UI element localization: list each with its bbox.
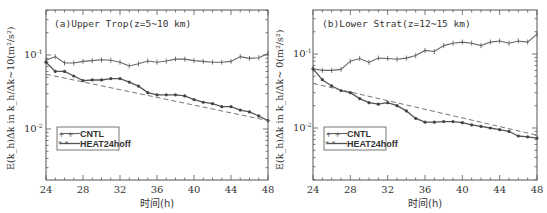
panel-title: (a)Upper Trop(z=5~10 km) xyxy=(54,18,191,29)
ytick-label-1e-1: 10-1 xyxy=(24,48,43,60)
xtick-label: 36 xyxy=(151,184,164,195)
plot-frame xyxy=(313,10,537,180)
xtick-label: 48 xyxy=(262,184,275,195)
xtick-label: 36 xyxy=(419,184,432,195)
legend: + + CNTL * * HEAT24hoff xyxy=(324,127,399,150)
legend-label-cntl: CNTL xyxy=(80,129,104,139)
y-axis-label: E(k_h)Δk in k_h/Δk~10(m²/s²) xyxy=(5,27,17,170)
xtick-label: 32 xyxy=(114,184,127,195)
ytick-label-1e-1: 10-1 xyxy=(293,47,312,59)
series-line-heat24hoff xyxy=(46,62,268,120)
xtick-label: 28 xyxy=(77,184,90,195)
legend-marker-cntl: + + xyxy=(58,130,74,139)
legend-label-heat: HEAT24hoff xyxy=(347,139,399,149)
x-tick-labels: 24283236404448 xyxy=(307,184,544,195)
ytick-label-1e-2: 10-2 xyxy=(293,121,312,133)
xtick-label: 40 xyxy=(188,184,201,195)
panel-upper-trop: (a)Upper Trop(z=5~10 km) 10-1 10-2 E(k_h… xyxy=(5,10,274,209)
legend: + + CNTL * * HEAT24hoff xyxy=(57,127,132,150)
legend-marker-heat: * * xyxy=(58,140,69,149)
y-axis-label: E(k_h)Δk in k_h/Δk~ 0(m²/s²) xyxy=(274,30,286,170)
x-axis-label: 时间(h) xyxy=(408,197,442,209)
series-line-trend-dashed- xyxy=(46,74,268,120)
legend-label-cntl: CNTL xyxy=(347,129,371,139)
data-series xyxy=(44,51,269,122)
xtick-label: 28 xyxy=(344,184,357,195)
xtick-label: 24 xyxy=(307,184,320,195)
legend-marker-cntl: + + xyxy=(325,130,341,139)
x-axis-label: 时间(h) xyxy=(140,197,174,209)
legend-label-heat: HEAT24hoff xyxy=(80,139,132,149)
data-series xyxy=(311,32,538,140)
x-tick-labels: 24283236404448 xyxy=(40,184,275,195)
xtick-label: 24 xyxy=(40,184,53,195)
xtick-label: 40 xyxy=(456,184,469,195)
panel-title: (b)Lower Strat(z=12~15 km) xyxy=(322,18,471,29)
ytick-label-1e-2: 10-2 xyxy=(24,122,43,134)
xtick-label: 48 xyxy=(531,184,544,195)
xtick-label: 44 xyxy=(493,184,506,195)
xtick-label: 32 xyxy=(381,184,394,195)
axis-ticks xyxy=(313,10,537,180)
panel-lower-strat: (b)Lower Strat(z=12~15 km) 10-1 10-2 E(k… xyxy=(274,10,543,209)
chart-figure: (a)Upper Trop(z=5~10 km) 10-1 10-2 E(k_h… xyxy=(0,0,547,213)
legend-marker-heat: * * xyxy=(325,140,336,149)
xtick-label: 44 xyxy=(225,184,238,195)
